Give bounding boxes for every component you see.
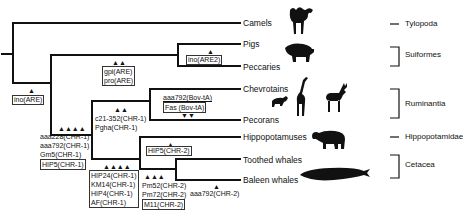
taxon-toothed-whales: Toothed whales [243,155,302,165]
marker-box-suiformes: gpi(ARE) pro(ARE) [102,66,135,86]
marker-list-ruminantia: c21-352(CHR-1) Pgha(CHR-1) [95,114,146,132]
insertion-triangles: ▲▲▲ [144,173,165,180]
marker-pgha: Pgha(CHR-1) [95,123,146,132]
marker-hip24: HIP24(CHR-1) [91,171,137,180]
marker-m11: M11(CHR-2) [142,199,185,210]
marker-aaa792-bovta: aaa792(Bov-tA) [163,93,212,102]
marker-c21-352: c21-352(CHR-1) [95,114,146,123]
marker-aaa792-chr2: aaa792(CHR-2) [190,190,239,198]
group-suiformes: Suiformes [405,50,441,60]
marker-gm5: Gm5(CHR-1) [40,150,89,159]
deer-icon [326,83,347,112]
marker-af: AF(CHR-1) [91,198,137,207]
taxon-hippopotamuses: Hippopotamuses [243,132,307,142]
insertion-triangles-down: ▼▼ [181,112,195,119]
marker-box-hippo-cetacea: HIP24(CHR-1) KM14(CHR-1) HIP4(CHR-1) AF(… [89,170,139,208]
taxon-pecorans: Pecorans [243,115,279,125]
insertion-triangles: ▲ [213,183,220,190]
marker-gpi-are: gpi(ARE) [104,67,133,76]
group-cetacea: Cetacea [405,160,435,170]
marker-pro-are: pro(ARE) [104,76,133,85]
insertion-triangles: ▲▲▲▲ [103,163,131,170]
insertion-triangles: ▲▲ [112,59,126,66]
taxon-peccaries: Peccaries [243,62,280,72]
hippo-icon [312,131,345,149]
marker-pm72: Pm72(CHR-2) [142,190,186,199]
group-tylopoda: Tylopoda [405,19,437,29]
pig-icon [285,44,314,63]
marker-hip5-chr1: HIP5(CHR-1) [40,159,86,170]
marker-hip4: HIP4(CHR-1) [91,189,137,198]
marker-ino-are2: ino(ARE2) [186,55,222,65]
insertion-triangles: ▲▲▲▲ [58,125,86,132]
marker-km14: KM14(CHR-1) [91,180,137,189]
taxon-pigs: Pigs [243,39,260,49]
marker-ino-are: ino(ARE) [12,95,44,105]
marker-hip5-chr2: HIP5(CHR-2) [146,146,192,156]
taxon-baleen-whales: Baleen whales [243,175,298,185]
taxon-chevrotains: Chevrotains [243,84,288,94]
marker-list-cetacea: Pm52(CHR-2) Pm72(CHR-2) M11(CHR-2) [142,181,186,210]
marker-aaa228: aaa228(CHR-1) [40,132,89,141]
chevrotain-icon [272,96,288,107]
marker-pm52: Pm52(CHR-2) [142,181,186,190]
taxon-camels: Camels [243,18,272,28]
whale-icon [300,168,370,181]
giraffe-icon [297,77,308,116]
insertion-triangles: ▲ [28,87,35,94]
insertion-triangles: ▲▲ [114,106,128,113]
marker-list-pecorans: aaa792(Bov-tA) Fas (Bov-tA) [163,93,212,113]
group-hippopotamidae: Hippopotamidae [405,132,463,142]
insertion-triangles: ▲ [207,48,214,55]
camel-icon [290,7,313,34]
group-ruminantia: Ruminantia [405,99,445,109]
marker-aaa792-chr1: aaa792(CHR-1) [40,141,89,150]
marker-list-chr1-stem: aaa228(CHR-1) aaa792(CHR-1) Gm5(CHR-1) H… [40,132,89,170]
